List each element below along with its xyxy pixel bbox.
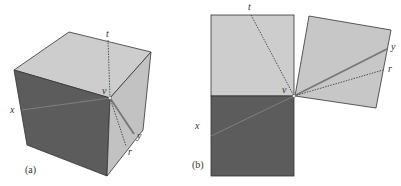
figure-canvas: t v x y r (a) t v x y r (b) [0, 0, 401, 186]
unfolded-front-face [211, 96, 294, 176]
label-v: v [282, 84, 287, 95]
label-t: t [248, 1, 251, 12]
label-r: r [128, 146, 132, 157]
unfolded-right-face [295, 16, 391, 108]
label-v: v [102, 85, 107, 96]
label-y: y [136, 130, 142, 141]
caption-b: (b) [192, 159, 204, 171]
label-x: x [194, 120, 200, 131]
vertex-v [293, 95, 296, 98]
panel-a-cube: t v x y r (a) [9, 28, 151, 176]
label-y: y [390, 41, 396, 52]
panel-b-unfolded: t v x y r (b) [192, 1, 396, 176]
label-r: r [388, 63, 392, 74]
label-x: x [9, 104, 15, 115]
caption-a: (a) [25, 164, 36, 176]
label-t: t [106, 28, 109, 39]
vertex-v [109, 97, 112, 100]
